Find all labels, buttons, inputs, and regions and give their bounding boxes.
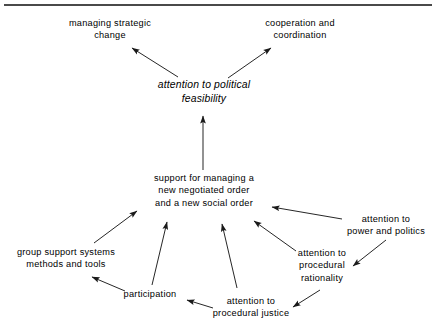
edge-participation-to-support bbox=[152, 222, 167, 285]
node-attention-to-procedural-justice: attention to procedural justice bbox=[213, 295, 290, 320]
edge-feasibility-to-cooperation-and-coordination bbox=[228, 48, 271, 78]
diagram-canvas: managing strategic changecooperation and… bbox=[0, 0, 435, 332]
edge-procedural-rationality-to-procedural-justice bbox=[293, 290, 320, 307]
node-attention-to-power-and-politics: attention to power and politics bbox=[347, 213, 425, 238]
node-managing-strategic-change: managing strategic change bbox=[69, 17, 151, 42]
node-attention-to-political-feasibility: attention to political feasibility bbox=[158, 78, 250, 105]
edge-feasibility-to-managing-strategic-change bbox=[132, 48, 178, 77]
node-support-for-managing-new-order: support for managing a new negotiated or… bbox=[154, 172, 254, 209]
edge-procedural-rationality-to-support bbox=[254, 221, 296, 251]
diagram-edges-layer bbox=[0, 0, 435, 332]
node-cooperation-and-coordination: cooperation and coordination bbox=[265, 17, 335, 42]
edge-group-support-to-support bbox=[94, 211, 137, 243]
edge-power-and-politics-to-support bbox=[272, 207, 342, 219]
edge-participation-to-group-support bbox=[92, 277, 125, 291]
node-participation: participation bbox=[124, 288, 177, 300]
edge-procedural-justice-to-support bbox=[222, 224, 237, 288]
node-attention-to-procedural-rationality: attention to procedural rationality bbox=[298, 247, 346, 284]
node-group-support-systems-methods-and-tools: group support systems methods and tools bbox=[17, 246, 115, 271]
edge-power-and-politics-to-procedural-rationality bbox=[353, 240, 386, 266]
edge-procedural-justice-to-participation bbox=[187, 300, 213, 308]
